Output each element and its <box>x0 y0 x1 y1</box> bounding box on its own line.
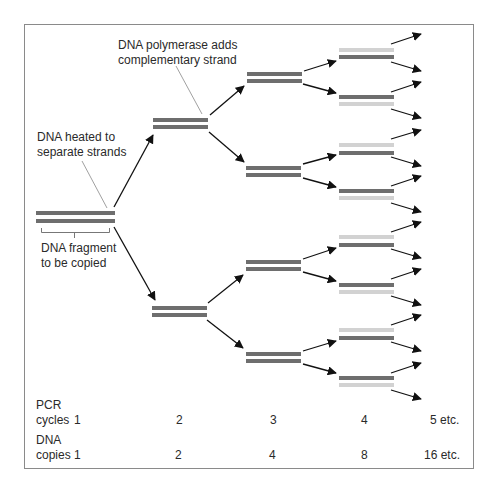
cycles-label-line1: PCR <box>36 398 69 413</box>
strand-pair-cycle1 <box>36 211 115 223</box>
annotation-heated-line2: separate strands <box>37 145 126 160</box>
strand-pair-cycle3 <box>246 72 302 363</box>
copies-value-5: 16 etc. <box>424 448 460 463</box>
cycles-label-line2: cycles <box>36 413 69 428</box>
fragment-bracket <box>42 228 110 238</box>
annotation-fragment-line2: to be copied <box>41 256 116 271</box>
strand-pair-cycle4 <box>339 48 394 387</box>
copies-value-2: 2 <box>175 448 182 463</box>
annotation-polymerase-line2: complementary strand <box>118 53 237 68</box>
copies-label-line1: DNA <box>36 433 71 448</box>
annotation-polymerase: DNA polymerase adds complementary strand <box>118 38 237 68</box>
copies-value-4: 8 <box>361 448 368 463</box>
cycle-value-4: 4 <box>361 413 368 428</box>
copies-value-1: 1 <box>74 448 81 463</box>
strand-pair-cycle2 <box>152 118 208 317</box>
cycle-value-2: 2 <box>176 413 183 428</box>
cycle-value-5: 5 etc. <box>430 413 459 428</box>
annotation-fragment-line1: DNA fragment <box>41 241 116 256</box>
annotation-fragment: DNA fragment to be copied <box>41 241 116 271</box>
cycle-value-3: 3 <box>270 413 277 428</box>
annotation-heated-line1: DNA heated to <box>37 130 126 145</box>
cycle-value-1: 1 <box>74 413 81 428</box>
copies-row-label: DNA copies <box>36 433 71 463</box>
copies-value-3: 4 <box>269 448 276 463</box>
cycles-row-label: PCR cycles <box>36 398 69 428</box>
annotation-heated: DNA heated to separate strands <box>37 130 126 160</box>
arrows <box>114 34 421 399</box>
copies-label-line2: copies <box>36 448 71 463</box>
annotation-polymerase-line1: DNA polymerase adds <box>118 38 237 53</box>
